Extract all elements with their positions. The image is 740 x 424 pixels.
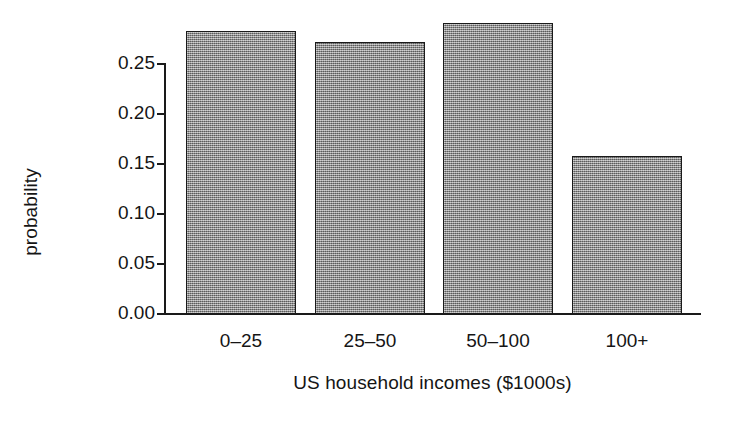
x-tick-label: 0–25 xyxy=(181,328,301,354)
bar-25-50 xyxy=(315,42,425,314)
bars-layer xyxy=(0,0,740,424)
bar-100-plus xyxy=(572,156,682,314)
x-tick-label: 25–50 xyxy=(310,328,430,354)
bar-chart: probability 0.00 0.05 0.10 0.15 0.20 0.2… xyxy=(0,0,740,424)
x-axis-title: US household incomes ($1000s) xyxy=(164,372,701,394)
x-tick-label: 50–100 xyxy=(438,328,558,354)
bar-50-100 xyxy=(443,23,553,314)
bar-0-25 xyxy=(186,31,296,314)
x-tick-label: 100+ xyxy=(567,328,687,354)
